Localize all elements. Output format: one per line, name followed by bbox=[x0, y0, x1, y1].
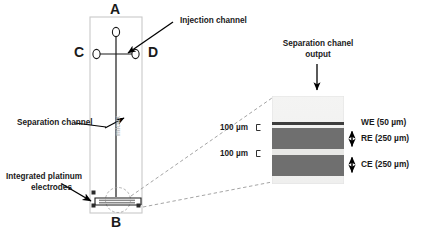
gap-bracket-marks bbox=[257, 125, 261, 157]
injection-channel-label: Injection channel bbox=[180, 16, 247, 25]
integrated-electrodes-label-line1: Integrated platinum bbox=[6, 172, 82, 181]
micrograph-band-ce bbox=[272, 155, 344, 176]
electrode-label-we: WE (50 µm) bbox=[361, 118, 406, 127]
reservoir-label-d: D bbox=[148, 45, 158, 61]
electrode-label-ce: CE (250 µm) bbox=[361, 160, 409, 169]
separation-output-label-line1: Separation chanel bbox=[274, 39, 362, 48]
chip-inline-vertical-text: micux bbox=[114, 116, 121, 136]
micrograph-image bbox=[272, 96, 344, 184]
magnification-connectors bbox=[131, 98, 272, 207]
separation-output-label-line2: output bbox=[274, 50, 362, 59]
reservoir-label-b: B bbox=[111, 215, 121, 231]
reservoir-label-a: A bbox=[110, 2, 120, 18]
separation-channel-label: Separation channel bbox=[17, 118, 93, 127]
gap-label-top: 100 µm bbox=[220, 123, 248, 132]
reservoir-label-c: C bbox=[74, 45, 84, 61]
micrograph-band-re bbox=[272, 128, 344, 149]
electrode-label-re: RE (250 µm) bbox=[361, 134, 409, 143]
integrated-electrodes-label-line2: electrodes bbox=[31, 183, 72, 192]
micrograph-band-we bbox=[272, 122, 344, 125]
gap-label-bottom: 100 µm bbox=[220, 149, 248, 158]
figure-canvas: A B C D micux Injection channel Separati… bbox=[0, 0, 436, 241]
